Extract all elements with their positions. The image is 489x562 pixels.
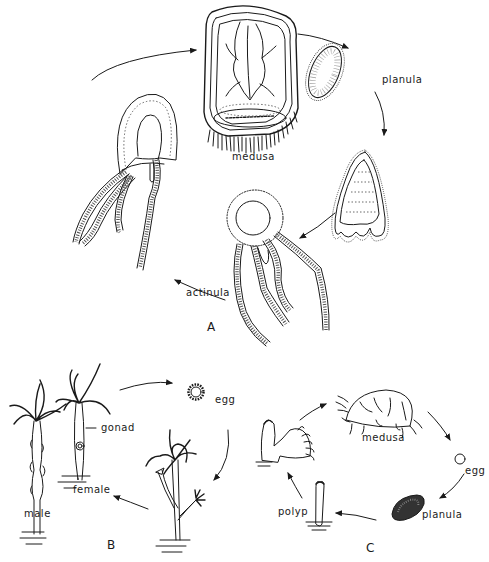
label-b-gonad: gonad [101,423,135,433]
label-b-male: male [24,509,51,519]
larva-illustration [332,150,389,242]
label-a-actinula: actinula [186,288,230,298]
arrow-egg-to-planula [440,474,464,498]
label-a-planula: planula [382,75,422,85]
panel-b-cycle [114,382,229,509]
label-b-egg: egg [215,395,235,405]
scypho-budding-polyp-illustration [256,420,314,466]
panel-label-b: B [107,539,115,551]
actinula-illustration [227,190,329,346]
label-c-planula: planula [422,510,462,520]
hydra-male-illustration [10,380,66,544]
juvenile-medusa-illustration [73,94,177,270]
hydra-budding-polyp-illustration [146,430,205,552]
panel-label-a: A [207,321,215,333]
arrow-polyp-to-medusa [300,404,326,420]
planula-illustration [298,38,352,106]
arrow-larva-to-actinula [300,213,335,238]
label-b-female: female [73,485,110,495]
panel-label-c: C [366,542,374,554]
arrow-medusa-to-planula [298,34,348,48]
arrow-egg-to-polyp [214,430,229,480]
label-a-medusa: medusa [232,152,275,162]
scypho-medusa-illustration [336,390,422,438]
label-c-polyp: polyp [278,507,308,517]
scypho-polyp-illustration [306,482,332,531]
scypho-planula-illustration [392,495,424,520]
arrow-juvenile-to-medusa [92,50,196,80]
arrow-planula-to-polyp [336,513,376,520]
label-c-egg: egg [465,466,485,476]
hydra-egg-illustration [189,385,204,400]
panel-a-cycle [92,34,384,300]
scypho-egg-illustration [455,454,465,464]
arrow-female-to-egg [120,382,172,390]
arrow-polyp-to-female [114,496,148,509]
label-c-medusa: medusa [362,433,405,443]
arrow-medusa-to-egg [428,412,450,440]
arrow-planula-to-larva [375,92,384,135]
arrow-polyp-to-strobila [288,473,302,498]
medusa-illustration [204,6,298,153]
